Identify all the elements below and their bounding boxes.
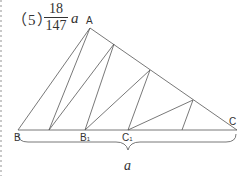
side-AB (18, 28, 90, 130)
triangle-figure (0, 0, 240, 176)
segment (49, 28, 90, 130)
segment (49, 44, 114, 130)
point-C1-label: C1 (122, 132, 133, 143)
vertex-B-label: B (14, 132, 21, 143)
vertex-C-label: C (229, 116, 236, 127)
brace-label: a (124, 158, 131, 174)
point-B1-label: B1 (80, 132, 90, 143)
side-AC (90, 28, 237, 130)
vertex-A-label: A (86, 15, 93, 26)
